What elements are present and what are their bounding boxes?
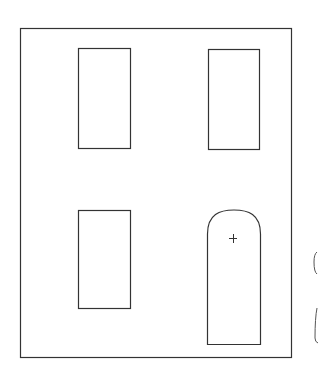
stray-mark-right-lower <box>315 308 318 343</box>
window-top-right <box>209 50 260 150</box>
arched-door <box>208 210 261 345</box>
facade-outline <box>21 29 292 358</box>
window-bottom-left <box>79 211 131 309</box>
window-top-left <box>79 49 131 149</box>
crosshair-cursor-icon <box>229 234 237 243</box>
stray-mark-right-upper <box>314 252 317 274</box>
building-facade-drawing <box>0 0 319 372</box>
